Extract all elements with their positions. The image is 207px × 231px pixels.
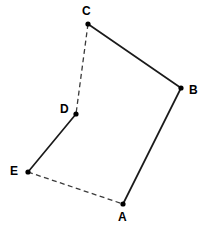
vertex-label-E: E [10,165,18,177]
edges-group [28,24,181,204]
geometry-figure-canvas: ABCDE [0,0,207,231]
vertices-group [25,21,183,206]
vertex-point-D [73,111,78,116]
vertex-point-C [85,21,90,26]
vertex-point-E [25,169,30,174]
vertex-label-B: B [189,84,198,96]
vertex-point-B [178,85,183,90]
vertex-label-D: D [60,103,69,115]
vertex-label-A: A [118,211,127,223]
vertex-point-A [120,201,125,206]
dashed-segment-CD [76,24,88,114]
solid-segment-BA [123,88,181,204]
dashed-segment-EA [28,172,123,204]
geometry-figure-svg [0,0,207,231]
solid-segment-DE [28,114,76,172]
solid-segment-CB [88,24,181,88]
vertex-label-C: C [82,5,91,17]
